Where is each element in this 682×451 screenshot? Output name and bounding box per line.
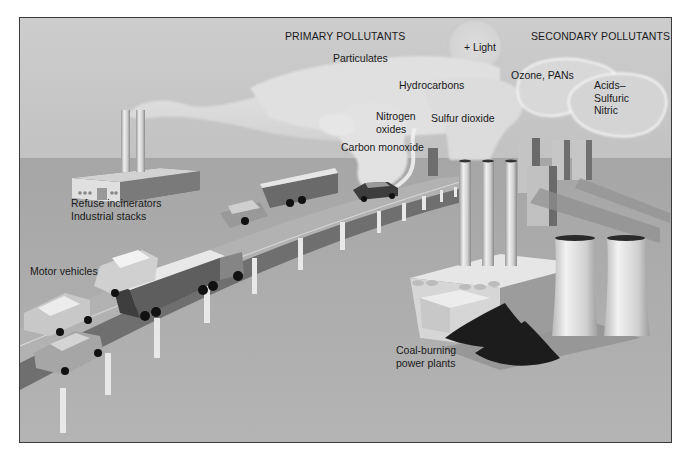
industrial-sources-label: Refuse incinerators Industrial stacks — [71, 197, 161, 222]
carbon-monoxide-label: Carbon monoxide — [341, 141, 424, 154]
nitrogen-oxides-label: Nitrogen oxides — [376, 110, 416, 135]
smokestack — [121, 110, 130, 172]
illustration-frame: PRIMARY POLLUTANTS SECONDARY POLLUTANTS … — [19, 17, 672, 443]
acids-label: Acids– Sulfuric Nitric — [594, 79, 629, 117]
motor-vehicles-label: Motor vehicles — [30, 265, 98, 278]
ozone-pans-label: Ozone, PANs — [511, 69, 574, 82]
particulates-label: Particulates — [333, 52, 388, 65]
power-plants-label: Coal-burning power plants — [396, 344, 456, 369]
light-label: + Light — [464, 41, 496, 54]
primary-pollutants-heading: PRIMARY POLLUTANTS — [285, 30, 405, 43]
sulfur-dioxide-label: Sulfur dioxide — [431, 112, 495, 125]
pollution-scene — [20, 18, 672, 443]
smokestack — [482, 161, 494, 266]
smokestack — [459, 161, 471, 266]
hydrocarbons-label: Hydrocarbons — [399, 79, 464, 92]
cooling-tower — [604, 238, 650, 336]
smokestack — [505, 161, 517, 266]
secondary-pollutants-heading: SECONDARY POLLUTANTS — [531, 30, 670, 43]
smokestack — [136, 110, 145, 172]
cooling-tower — [552, 238, 598, 336]
